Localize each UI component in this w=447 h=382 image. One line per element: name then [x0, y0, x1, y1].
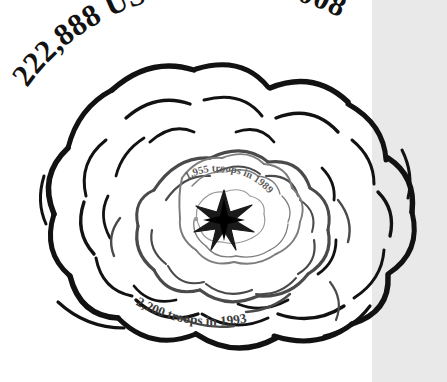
figure-canvas: 222,888 US troops in 2008 2,200 troops i…: [0, 0, 447, 382]
label-outer-textpath: 222,888 US troops in 2008: [5, 0, 352, 92]
label-middle-textpath: 2,200 troops in 1993: [134, 294, 248, 329]
explosion-cloud-illustration: 222,888 US troops in 2008 2,200 troops i…: [0, 0, 447, 382]
label-outer-2008: 222,888 US troops in 2008: [5, 0, 352, 92]
label-middle-1993: 2,200 troops in 1993: [134, 294, 248, 329]
